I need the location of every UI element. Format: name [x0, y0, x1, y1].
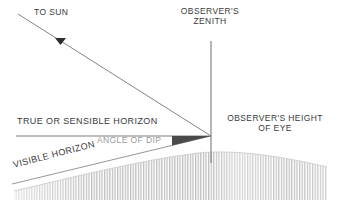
sun-direction-arrow-icon [55, 38, 66, 45]
label-true-or-sensible-horizon: TRUE OR SENSIBLE HORIZON [17, 116, 158, 126]
earth-surface [14, 152, 327, 200]
label-observers-zenith: OBSERVER'S ZENITH [168, 7, 252, 27]
diagram-canvas [0, 0, 339, 219]
dip-angle-diagram: TO SUN OBSERVER'S ZENITH TRUE OR SENSIBL… [0, 0, 339, 219]
label-to-sun: TO SUN [34, 8, 68, 18]
label-angle-of-dip: ANGLE OF DIP [97, 136, 161, 146]
label-observers-height-of-eye: OBSERVER'S HEIGHT OF EYE [220, 114, 330, 134]
label-observers-height-line2: OF EYE [220, 124, 330, 134]
earth-shade-overlay [14, 152, 327, 200]
label-observers-zenith-line2: ZENITH [168, 17, 252, 27]
